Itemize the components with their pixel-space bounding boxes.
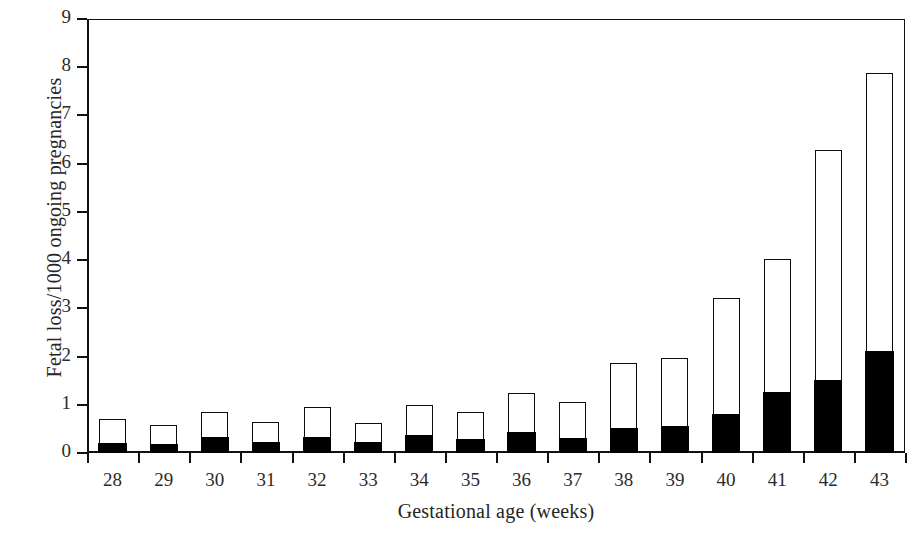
y-axis-tick-label: 2 — [62, 345, 72, 364]
bar-lower-segment — [559, 438, 587, 453]
y-axis-tick: 4 — [77, 259, 87, 261]
bar-lower-segment — [456, 439, 484, 453]
bar — [355, 423, 382, 452]
bar-lower-segment — [98, 443, 126, 453]
bar-lower-segment — [661, 426, 689, 453]
plot-right-border — [904, 19, 905, 453]
plot-area: 0123456789 28293031323334353637383940414… — [87, 19, 905, 453]
y-axis-tick: 3 — [77, 307, 87, 309]
y-axis-tick: 8 — [77, 66, 87, 68]
x-axis-tick — [854, 453, 856, 463]
x-axis-tick — [343, 453, 345, 463]
bar-lower-segment — [150, 444, 178, 453]
x-axis-tick — [905, 453, 907, 463]
y-axis-tick: 7 — [77, 114, 87, 116]
bar — [815, 150, 842, 452]
x-axis-tick-label: 43 — [849, 470, 909, 489]
y-axis-tick-label: 4 — [62, 248, 72, 267]
bar-lower-segment — [405, 435, 433, 453]
y-axis-tick: 6 — [77, 163, 87, 165]
y-axis-tick-label: 1 — [62, 393, 72, 412]
x-axis-tick — [598, 453, 600, 463]
y-axis-tick: 1 — [77, 404, 87, 406]
y-axis-tick-label: 6 — [62, 152, 72, 171]
x-axis-tick — [189, 453, 191, 463]
bar — [99, 419, 126, 452]
bar-lower-segment — [712, 414, 740, 453]
y-axis-tick-label: 3 — [62, 296, 72, 315]
bar — [406, 405, 433, 452]
bar-lower-segment — [252, 442, 280, 453]
plot-top-border — [87, 19, 905, 20]
bar — [508, 393, 535, 452]
y-axis-tick: 0 — [77, 452, 87, 454]
y-axis-tick-label: 9 — [62, 7, 72, 26]
x-axis-tick — [445, 453, 447, 463]
y-axis-tick-label: 5 — [62, 200, 72, 219]
bar — [764, 259, 791, 452]
x-axis-tick — [752, 453, 754, 463]
bar-lower-segment — [303, 437, 331, 453]
x-axis-tick — [240, 453, 242, 463]
y-axis-tick: 5 — [77, 211, 87, 213]
bar-lower-segment — [814, 380, 842, 452]
chart-figure: Fetal loss/1000 ongoing pregnancies 0123… — [0, 0, 917, 538]
y-axis-tick: 9 — [77, 18, 87, 20]
bar-lower-segment — [865, 351, 893, 452]
bar — [661, 358, 688, 452]
x-axis-title: Gestational age (weeks) — [87, 500, 905, 523]
bar-lower-segment — [354, 442, 382, 453]
y-axis-tick-label: 0 — [62, 441, 72, 460]
bar — [713, 298, 740, 452]
x-axis-tick — [803, 453, 805, 463]
x-axis-tick — [292, 453, 294, 463]
y-axis-tick-label: 8 — [62, 55, 72, 74]
x-axis-tick — [701, 453, 703, 463]
bar — [252, 422, 279, 452]
y-axis-line — [87, 19, 89, 453]
x-axis-tick — [138, 453, 140, 463]
bar — [150, 425, 177, 452]
bar — [559, 402, 586, 452]
bar-lower-segment — [610, 428, 638, 452]
y-axis-tick: 2 — [77, 356, 87, 358]
bar — [866, 73, 893, 452]
x-axis-tick — [496, 453, 498, 463]
y-axis-tick-label: 7 — [62, 103, 72, 122]
x-axis-tick — [649, 453, 651, 463]
bar — [201, 412, 228, 453]
bar — [457, 412, 484, 452]
bar — [610, 363, 637, 452]
bar — [304, 407, 331, 452]
x-axis-tick — [394, 453, 396, 463]
bar-lower-segment — [201, 437, 229, 453]
y-axis-title: Fetal loss/1000 ongoing pregnancies — [43, 18, 66, 438]
bar-lower-segment — [763, 392, 791, 452]
x-axis-tick — [547, 453, 549, 463]
x-axis-tick — [87, 453, 89, 463]
bar-lower-segment — [507, 432, 535, 452]
